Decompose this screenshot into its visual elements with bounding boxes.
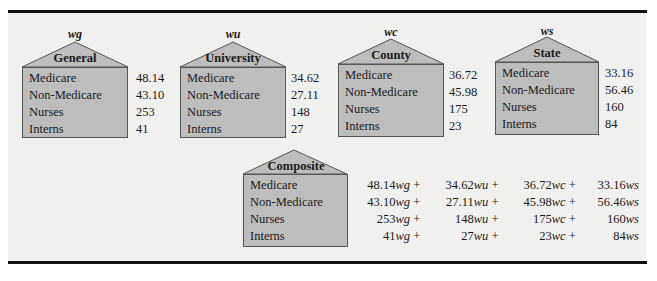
house-general: wg General Medicare Non-Medicare Nurses … bbox=[22, 27, 192, 142]
row-label-nurses: Nurses bbox=[250, 211, 323, 228]
value-medicare: 34.62 bbox=[291, 70, 319, 87]
row-labels: Medicare Non-Medicare Nurses Interns bbox=[29, 70, 102, 138]
value-nurses: 160 bbox=[605, 99, 633, 116]
row-label-nurses: Nurses bbox=[345, 101, 418, 118]
house-state: ws State Medicare Non-Medicare Nurses In… bbox=[495, 27, 655, 142]
house-title: General bbox=[22, 51, 128, 66]
value-interns: 27 bbox=[291, 121, 319, 138]
row-label-non-medicare: Non-Medicare bbox=[187, 87, 260, 104]
row-label-interns: Interns bbox=[29, 121, 102, 138]
value-nurses: 175 bbox=[449, 101, 477, 118]
house-title: State bbox=[495, 46, 599, 61]
house-title: University bbox=[180, 51, 286, 66]
top-rule bbox=[8, 10, 647, 13]
equation-interns: 41wg + 27wu + 23wc + 84ws bbox=[354, 228, 639, 245]
row-label-interns: Interns bbox=[187, 121, 260, 138]
equation-non-medicare: 43.10wg + 27.11wu + 45.98wc + 56.46ws bbox=[354, 194, 639, 211]
house-title: Composite bbox=[243, 159, 349, 174]
house-values: 33.16 56.46 160 84 bbox=[605, 65, 633, 133]
house-values: 48.14 43.10 253 41 bbox=[136, 70, 164, 138]
composite-equations: 48.14wg + 34.62wu + 36.72wc + 33.16ws 43… bbox=[354, 177, 639, 245]
value-interns: 23 bbox=[449, 118, 477, 135]
house-values: 36.72 45.98 175 23 bbox=[449, 67, 477, 135]
value-interns: 41 bbox=[136, 121, 164, 138]
row-labels: Medicare Non-Medicare Nurses Interns bbox=[187, 70, 260, 138]
row-label-medicare: Medicare bbox=[29, 70, 102, 87]
row-label-non-medicare: Non-Medicare bbox=[29, 87, 102, 104]
value-medicare: 33.16 bbox=[605, 65, 633, 82]
row-label-medicare: Medicare bbox=[345, 67, 418, 84]
row-label-non-medicare: Non-Medicare bbox=[250, 194, 323, 211]
value-interns: 84 bbox=[605, 116, 633, 133]
row-label-interns: Interns bbox=[502, 116, 575, 133]
row-label-nurses: Nurses bbox=[187, 104, 260, 121]
value-nurses: 253 bbox=[136, 104, 164, 121]
value-non-medicare: 43.10 bbox=[136, 87, 164, 104]
row-label-medicare: Medicare bbox=[250, 177, 323, 194]
bottom-rule bbox=[8, 261, 647, 264]
house-composite: Composite Medicare Non-Medicare Nurses I… bbox=[243, 150, 653, 250]
value-medicare: 48.14 bbox=[136, 70, 164, 87]
row-label-interns: Interns bbox=[345, 118, 418, 135]
row-label-interns: Interns bbox=[250, 228, 323, 245]
row-label-nurses: Nurses bbox=[502, 99, 575, 116]
row-label-non-medicare: Non-Medicare bbox=[502, 82, 575, 99]
row-label-medicare: Medicare bbox=[502, 65, 575, 82]
house-county: wc County Medicare Non-Medicare Nurses I… bbox=[338, 27, 508, 142]
row-labels: Medicare Non-Medicare Nurses Interns bbox=[345, 67, 418, 135]
row-labels: Medicare Non-Medicare Nurses Interns bbox=[250, 177, 323, 245]
row-label-non-medicare: Non-Medicare bbox=[345, 84, 418, 101]
value-non-medicare: 27.11 bbox=[291, 87, 319, 104]
house-values: 34.62 27.11 148 27 bbox=[291, 70, 319, 138]
house-title: County bbox=[338, 48, 444, 63]
value-medicare: 36.72 bbox=[449, 67, 477, 84]
house-university: wu University Medicare Non-Medicare Nurs… bbox=[180, 27, 350, 142]
equation-nurses: 253wg + 148wu + 175wc + 160ws bbox=[354, 211, 639, 228]
value-non-medicare: 56.46 bbox=[605, 82, 633, 99]
row-label-medicare: Medicare bbox=[187, 70, 260, 87]
value-non-medicare: 45.98 bbox=[449, 84, 477, 101]
value-nurses: 148 bbox=[291, 104, 319, 121]
equation-medicare: 48.14wg + 34.62wu + 36.72wc + 33.16ws bbox=[354, 177, 639, 194]
row-label-nurses: Nurses bbox=[29, 104, 102, 121]
row-labels: Medicare Non-Medicare Nurses Interns bbox=[502, 65, 575, 133]
